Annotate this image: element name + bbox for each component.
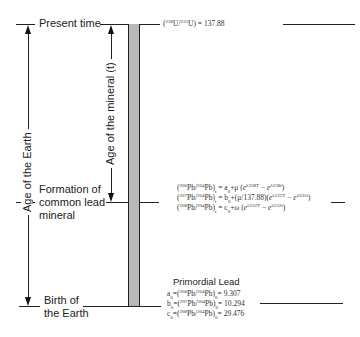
formation-label-line1: Formation of: [39, 183, 101, 196]
uranium-ratio-equation: (238U/235U) = 137.88: [163, 19, 225, 28]
pb206-equation: (206Pb/204Pb)t = a0+μ (eλ238T − eλ238t): [177, 183, 284, 192]
formation-label-line2: common lead: [39, 196, 105, 209]
b0-equation: b0=(207Pb/204Pb)0= 10.294: [167, 299, 245, 308]
uranium-ratio-line: [283, 24, 355, 25]
earth-age-arrow-up-icon: [25, 25, 31, 34]
age-of-earth-label: Age of the Earth: [21, 130, 33, 216]
b0-value: 10.294: [224, 299, 245, 308]
birth-line-left: [19, 306, 40, 307]
c0-value: 29.476: [224, 309, 245, 318]
birth-label-line1: Birth of: [44, 294, 79, 307]
birth-line-right: [83, 306, 161, 307]
uranium-ratio-value: 137.88: [204, 19, 225, 28]
age-of-mineral-label: Age of the mineral (t): [104, 59, 116, 168]
c0-equation: c0=(208Pb/204Pb)0= 29.476: [167, 309, 244, 318]
present-time-label: Present time: [39, 17, 101, 30]
earth-age-arrow-down-icon: [25, 297, 31, 306]
pb207-equation: (207Pb/204Pb)t = b0+(μ/137.88)(eλ235T − …: [177, 193, 311, 202]
mineral-age-arrow-down-icon: [108, 193, 114, 202]
formation-line-far-right: [331, 202, 345, 203]
a0-value: 9.307: [224, 289, 241, 298]
primordial-line: [260, 303, 343, 304]
formation-label-line3: mineral: [39, 209, 75, 222]
pb208-equation: (208Pb/204Pb)t = c0+ω (eλ232T − eλ232t): [177, 203, 285, 212]
mineral-bar: [128, 24, 140, 306]
birth-label-line2: the Earth: [44, 307, 89, 320]
a0-equation: a0=(206Pb/204Pb)0= 9.307: [167, 289, 241, 298]
primordial-lead-title: Primordial Lead: [173, 275, 240, 288]
mineral-age-arrow-up-icon: [108, 25, 114, 34]
